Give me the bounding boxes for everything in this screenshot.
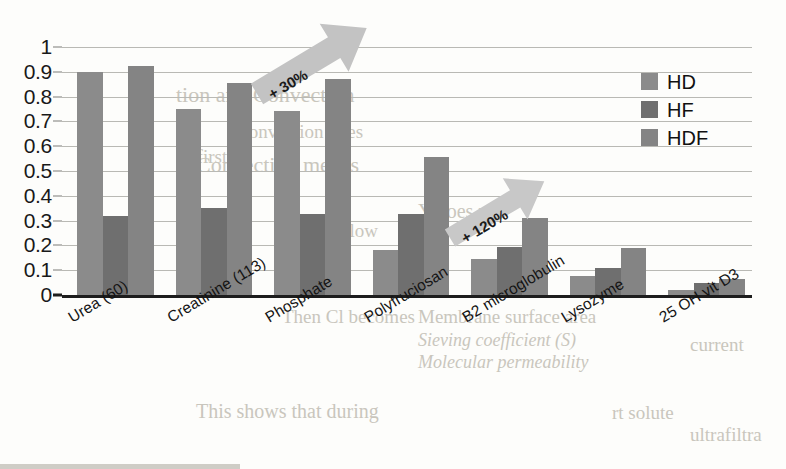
y-axis-tick-mark (53, 146, 62, 147)
y-axis-tick-mark (53, 71, 62, 72)
bar-group (570, 47, 647, 295)
y-axis-tick-mark (53, 195, 62, 196)
y-axis-tick-label: 0.6 (24, 134, 52, 158)
y-axis-tick-mark (53, 245, 62, 246)
bar-hd (274, 111, 300, 295)
y-axis-tick-label: 0.1 (24, 258, 52, 282)
legend-swatch (641, 101, 658, 118)
legend-label: HF (667, 100, 694, 120)
y-axis-tick-mark (53, 96, 62, 97)
y-axis: 00.10.20.30.40.50.60.70.80.91 (0, 47, 56, 295)
bar-hd (176, 109, 202, 295)
y-axis-tick-mark (53, 220, 62, 221)
y-axis-tick-mark (53, 171, 62, 172)
bar-group (77, 47, 154, 295)
legend-label: HDF (667, 128, 708, 148)
y-axis-tick-label: 1 (41, 35, 52, 59)
y-axis-tick-label: 0.4 (24, 184, 52, 208)
y-axis-tick-mark (53, 121, 62, 122)
legend: HDHFHDF (641, 69, 708, 153)
legend-item-hf: HF (641, 97, 708, 122)
y-axis-tick-label: 0.5 (24, 159, 52, 183)
y-axis-tick-label: 0.9 (24, 60, 52, 84)
y-axis-tick-mark (53, 47, 62, 48)
y-axis-tick-mark (53, 294, 62, 297)
y-axis-tick-label: 0.3 (24, 209, 52, 233)
legend-item-hd: HD (641, 69, 708, 94)
y-axis-tick-mark (53, 270, 62, 271)
legend-item-hdf: HDF (641, 125, 708, 150)
bar-hd (77, 72, 103, 295)
bar-chart: 00.10.20.30.40.50.60.70.80.91 Urea (60)C… (0, 0, 786, 469)
bar-group (176, 47, 253, 295)
y-axis-tick-label: 0.2 (24, 233, 52, 257)
arrow-annotation-30: + 30% (243, 16, 403, 116)
y-axis-tick-label: 0.8 (24, 85, 52, 109)
y-axis-tick-label: 0 (41, 283, 52, 307)
bar-hd (373, 250, 399, 295)
arrow-annotation-120: + 120% (440, 168, 580, 260)
y-axis-tick-label: 0.7 (24, 109, 52, 133)
legend-swatch (641, 129, 658, 146)
legend-label: HD (667, 72, 696, 92)
bar-hdf (128, 66, 154, 295)
legend-swatch (641, 73, 658, 90)
